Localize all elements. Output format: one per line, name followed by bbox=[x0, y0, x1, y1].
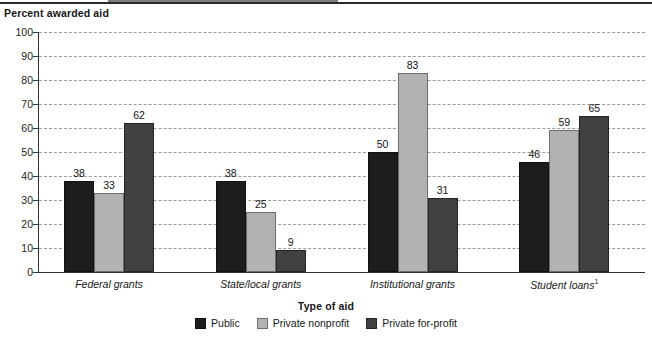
y-axis-tick-label: 30 bbox=[3, 194, 33, 206]
bar-value-label: 50 bbox=[377, 138, 389, 150]
y-axis-tick bbox=[33, 80, 39, 81]
x-axis-category-label: Federal grants bbox=[75, 278, 143, 290]
bar bbox=[398, 73, 428, 272]
gridline bbox=[39, 104, 645, 105]
y-axis-tick-label: 60 bbox=[3, 122, 33, 134]
bar bbox=[428, 198, 458, 272]
bar bbox=[216, 181, 246, 272]
plot-area: 38336238259508331465965 bbox=[38, 32, 645, 272]
bar-value-label: 9 bbox=[288, 236, 294, 248]
y-axis-title: Percent awarded aid bbox=[4, 7, 109, 19]
y-axis-tick bbox=[33, 128, 39, 129]
y-axis-tick-label: 0 bbox=[3, 266, 33, 278]
bar-value-label: 25 bbox=[255, 198, 267, 210]
gridline bbox=[39, 56, 645, 57]
bar-value-label: 62 bbox=[133, 109, 145, 121]
bar bbox=[246, 212, 276, 272]
y-axis-tick-label: 10 bbox=[3, 242, 33, 254]
bar-value-label: 59 bbox=[558, 116, 570, 128]
bar-value-label: 38 bbox=[73, 167, 85, 179]
y-axis-tick-label: 20 bbox=[3, 218, 33, 230]
y-axis-tick bbox=[33, 248, 39, 249]
y-axis-tick bbox=[33, 152, 39, 153]
gridline bbox=[39, 80, 645, 81]
bar bbox=[64, 181, 94, 272]
y-axis-tick-label: 100 bbox=[3, 26, 33, 38]
bar bbox=[124, 123, 154, 272]
gridline bbox=[39, 32, 645, 33]
bar-value-label: 33 bbox=[103, 179, 115, 191]
bar-value-label: 83 bbox=[407, 59, 419, 71]
legend-item: Public bbox=[195, 317, 240, 329]
x-axis-category-label: Institutional grants bbox=[370, 278, 455, 290]
bar bbox=[579, 116, 609, 272]
y-axis-tick bbox=[33, 104, 39, 105]
y-axis-tick bbox=[33, 56, 39, 57]
legend-swatch-icon bbox=[257, 318, 268, 329]
y-axis-tick-label: 70 bbox=[3, 98, 33, 110]
y-axis-tick bbox=[33, 176, 39, 177]
footnote-marker: 1 bbox=[594, 278, 598, 285]
x-axis-category-label: Student loans1 bbox=[530, 278, 598, 291]
y-axis-tick-label: 40 bbox=[3, 170, 33, 182]
legend-label: Private for-profit bbox=[382, 317, 457, 329]
legend-swatch-icon bbox=[366, 318, 377, 329]
y-axis-tick bbox=[33, 224, 39, 225]
legend-label: Public bbox=[211, 317, 240, 329]
bar-value-label: 46 bbox=[528, 148, 540, 160]
legend-item: Private nonprofit bbox=[257, 317, 349, 329]
y-axis-tick-label: 80 bbox=[3, 74, 33, 86]
bar-value-label: 38 bbox=[225, 167, 237, 179]
x-axis-category-label: State/local grants bbox=[220, 278, 301, 290]
y-axis-tick bbox=[33, 200, 39, 201]
bar bbox=[276, 250, 306, 272]
page-top-rule bbox=[0, 2, 652, 4]
x-axis-line bbox=[38, 272, 645, 273]
legend-swatch-icon bbox=[195, 318, 206, 329]
bar bbox=[94, 193, 124, 272]
x-axis-title: Type of aid bbox=[0, 300, 652, 312]
y-axis-tick-labels: 0102030405060708090100 bbox=[0, 32, 33, 272]
y-axis-tick-label: 50 bbox=[3, 146, 33, 158]
bar-value-label: 31 bbox=[437, 184, 449, 196]
legend-item: Private for-profit bbox=[366, 317, 457, 329]
y-axis-tick bbox=[33, 272, 39, 273]
bar bbox=[368, 152, 398, 272]
y-axis-tick bbox=[33, 32, 39, 33]
cut-off-header-text bbox=[108, 0, 338, 2]
bar bbox=[549, 130, 579, 272]
bar-value-label: 65 bbox=[588, 102, 600, 114]
chart-legend: PublicPrivate nonprofitPrivate for-profi… bbox=[0, 317, 652, 329]
y-axis-tick-label: 90 bbox=[3, 50, 33, 62]
legend-label: Private nonprofit bbox=[273, 317, 349, 329]
bar bbox=[519, 162, 549, 272]
